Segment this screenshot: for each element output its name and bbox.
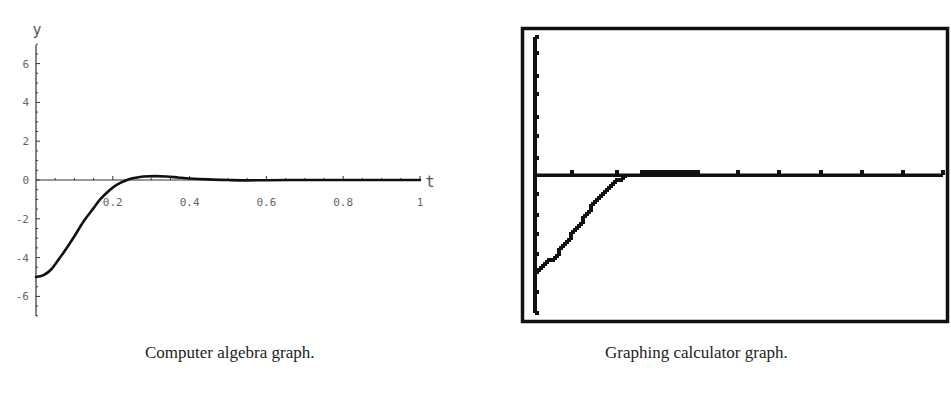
y-tick bbox=[535, 213, 539, 217]
computer-algebra-graph-panel: -6-4-202460.20.40.60.81yt Computer algeb… bbox=[0, 0, 470, 401]
y-tick bbox=[535, 92, 539, 96]
right-caption: Graphing calculator graph. bbox=[605, 343, 788, 363]
x-tick-label: 0.6 bbox=[256, 196, 276, 209]
x-tick-label: 1 bbox=[417, 196, 424, 209]
graphing-calculator-graph-panel: Graphing calculator graph. bbox=[480, 0, 951, 401]
axes: -6-4-202460.20.40.60.81yt bbox=[16, 21, 435, 316]
y-tick-label: 6 bbox=[22, 58, 29, 71]
x-tick bbox=[901, 170, 905, 175]
y-tick-label: 2 bbox=[22, 135, 29, 148]
x-tick bbox=[819, 170, 823, 175]
y-tick bbox=[535, 311, 539, 315]
y-tick-label: 4 bbox=[22, 96, 29, 109]
y-tick bbox=[535, 290, 539, 294]
y-tick bbox=[535, 51, 539, 55]
y-tick bbox=[535, 115, 539, 119]
x-tick bbox=[736, 170, 740, 175]
y-tick-label: -2 bbox=[16, 213, 29, 226]
x-tick bbox=[860, 170, 864, 175]
computer-algebra-plot: -6-4-202460.20.40.60.81yt bbox=[0, 0, 470, 401]
y-tick-label: -4 bbox=[16, 252, 30, 265]
x-tick bbox=[941, 170, 945, 175]
left-caption: Computer algebra graph. bbox=[145, 343, 314, 363]
y-tick-label: 0 bbox=[22, 174, 29, 187]
y-tick bbox=[535, 232, 539, 236]
curve-near-axis-segment bbox=[640, 170, 700, 176]
solution-curve bbox=[36, 176, 420, 277]
x-tick bbox=[570, 170, 574, 175]
graphing-calculator-plot bbox=[480, 0, 951, 401]
x-tick-label: 0.4 bbox=[180, 196, 200, 209]
x-tick bbox=[777, 170, 781, 175]
x-axis-label: t bbox=[425, 173, 434, 191]
y-tick bbox=[535, 252, 539, 256]
y-tick-label: -6 bbox=[16, 290, 29, 303]
y-tick bbox=[535, 156, 539, 160]
y-tick bbox=[535, 192, 539, 196]
y-axis-label: y bbox=[32, 21, 41, 39]
y-tick bbox=[535, 35, 539, 39]
y-tick bbox=[535, 74, 539, 78]
x-tick-label: 0.8 bbox=[333, 196, 353, 209]
x-tick bbox=[615, 170, 619, 175]
x-tick-label: 0.2 bbox=[103, 196, 123, 209]
y-tick bbox=[535, 134, 539, 138]
